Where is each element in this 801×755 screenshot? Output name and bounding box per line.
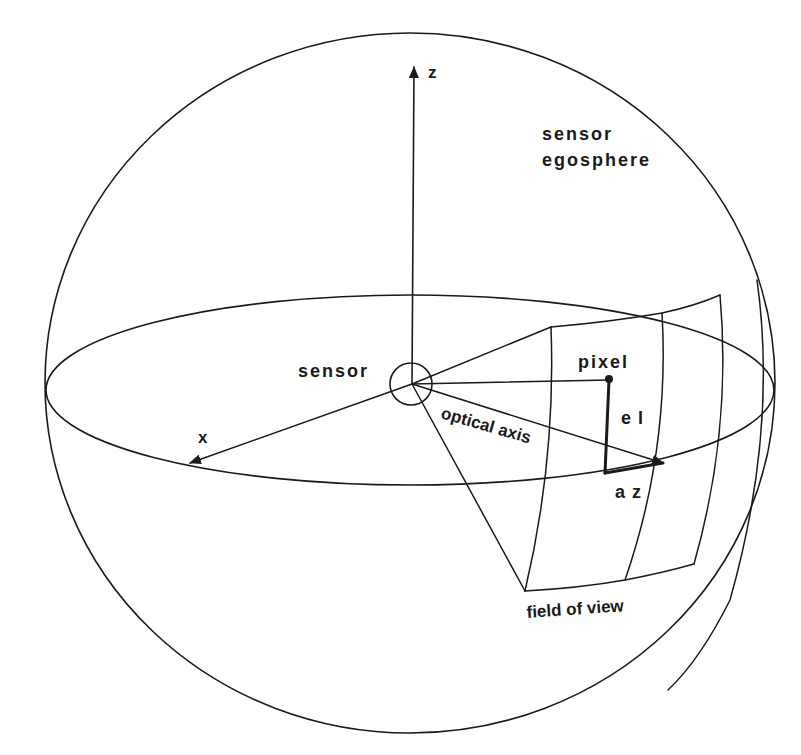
z-axis-label: z [428, 63, 437, 82]
egosphere-label-line1: sensor [542, 124, 613, 144]
optical-axis-label: optical axis [439, 404, 533, 448]
x-axis-arrow [190, 384, 412, 463]
egosphere-outline [45, 33, 775, 733]
fov-middle-edge [625, 313, 663, 580]
z-axis-arrow [412, 67, 414, 384]
pixel-ray [412, 380, 609, 384]
fov-outer-edge [668, 280, 763, 690]
field-of-view-label: field of view [526, 596, 625, 622]
sensor-label: sensor [298, 361, 369, 381]
elevation-segment [605, 380, 609, 473]
fov-left-edge [525, 327, 552, 591]
fov-top-edge [551, 295, 720, 327]
pixel-label: pixel [578, 352, 629, 372]
fov-bottom-edge [525, 564, 694, 591]
equator-ellipse [46, 295, 774, 485]
pixel-dot [605, 375, 613, 383]
x-axis-label: x [198, 428, 208, 447]
azimuth-label: a z [615, 482, 642, 502]
elevation-label: e l [621, 408, 644, 428]
egosphere-label-line2: egosphere [542, 150, 651, 170]
egosphere-diagram: z x sensor egosphere sensor pixel e l a … [0, 0, 801, 755]
fov-top-boundary-ray [412, 327, 551, 384]
